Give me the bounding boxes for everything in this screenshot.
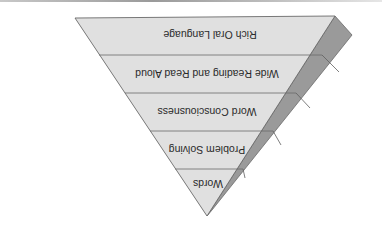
level-label-problem-solving: Problem Solving [169, 144, 246, 156]
pyramid-diagram: Rich Oral Language Wide Reading and Read… [0, 0, 382, 237]
level-label-words: Words [193, 178, 223, 190]
level-label-rich-oral-language: Rich Oral Language [163, 29, 257, 41]
level-label-word-consciousness: Word Consciousness [157, 106, 256, 118]
diagram-canvas: Rich Oral Language Wide Reading and Read… [0, 0, 382, 237]
level-label-wide-reading: Wide Reading and Read Aloud [135, 68, 279, 80]
